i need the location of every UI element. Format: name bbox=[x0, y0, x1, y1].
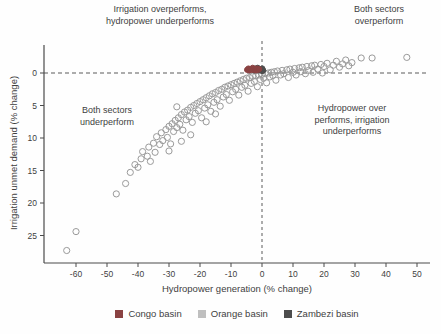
data-point bbox=[264, 80, 270, 86]
x-tick-label: -60 bbox=[70, 269, 83, 279]
data-point bbox=[171, 128, 177, 134]
legend-label-zambezi: Zambezi basin bbox=[297, 308, 359, 319]
x-tick-label: -20 bbox=[194, 269, 207, 279]
data-point bbox=[285, 74, 291, 80]
data-point bbox=[257, 67, 262, 72]
x-tick-label: -50 bbox=[101, 269, 114, 279]
y-tick-label: 0 bbox=[32, 68, 37, 78]
data-point bbox=[189, 119, 195, 125]
x-tick-label: 30 bbox=[350, 269, 360, 279]
data-point bbox=[369, 55, 375, 61]
data-point bbox=[226, 97, 232, 103]
annotation-both-overperform: Both sectors overperform bbox=[320, 4, 438, 27]
data-point bbox=[245, 88, 251, 94]
legend: Congo basin Orange basin Zambezi basin bbox=[44, 308, 430, 319]
data-point bbox=[150, 140, 156, 146]
data-point bbox=[180, 127, 186, 133]
annotation-irrigation-overperforms: Irrigation overperforms, hydropower unde… bbox=[60, 4, 260, 27]
legend-item-zambezi: Zambezi basin bbox=[284, 308, 359, 319]
data-point bbox=[236, 92, 242, 98]
data-point bbox=[358, 55, 364, 61]
data-point bbox=[174, 104, 180, 110]
y-tick-label: 15 bbox=[28, 166, 38, 176]
legend-label-congo: Congo basin bbox=[128, 308, 181, 319]
data-point bbox=[147, 158, 153, 164]
data-point bbox=[404, 54, 410, 60]
data-point bbox=[168, 141, 174, 147]
data-point bbox=[188, 132, 194, 138]
congo-swatch-icon bbox=[115, 310, 123, 318]
orange-swatch-icon bbox=[198, 310, 206, 318]
data-point bbox=[203, 119, 209, 125]
data-point bbox=[217, 103, 223, 109]
data-point bbox=[178, 138, 184, 144]
data-point bbox=[164, 134, 170, 140]
data-point bbox=[212, 111, 218, 117]
annotation-hydropower-overperforms: Hydropower over performs, irrigation und… bbox=[292, 103, 412, 138]
legend-item-congo: Congo basin bbox=[115, 308, 181, 319]
x-axis-label: Hydropower generation (% change) bbox=[44, 283, 430, 294]
figure: -60-50-40-30-20-10010203040500510152025 … bbox=[0, 0, 441, 334]
y-axis-label: Irrigation unmet demand (% change) bbox=[8, 76, 19, 230]
data-point bbox=[73, 229, 79, 235]
x-tick-label: -40 bbox=[132, 269, 145, 279]
data-point bbox=[64, 247, 70, 253]
x-tick-label: -30 bbox=[163, 269, 176, 279]
y-tick-label: 20 bbox=[28, 198, 38, 208]
data-point bbox=[138, 156, 144, 162]
x-tick-label: 40 bbox=[381, 269, 391, 279]
x-tick-label: 10 bbox=[288, 269, 298, 279]
annotation-both-underperform: Both sectors underperform bbox=[47, 105, 167, 128]
zambezi-swatch-icon bbox=[284, 310, 292, 318]
x-tick-label: 50 bbox=[412, 269, 422, 279]
legend-label-orange: Orange basin bbox=[211, 308, 268, 319]
data-point bbox=[273, 77, 279, 83]
legend-item-orange: Orange basin bbox=[198, 308, 268, 319]
y-tick-label: 10 bbox=[28, 133, 38, 143]
data-point bbox=[127, 169, 133, 175]
x-tick-label: 0 bbox=[260, 269, 265, 279]
data-point bbox=[166, 148, 172, 154]
data-point bbox=[113, 191, 119, 197]
y-tick-label: 5 bbox=[32, 101, 37, 111]
data-point bbox=[254, 84, 260, 90]
data-point bbox=[123, 180, 129, 186]
x-tick-label: 20 bbox=[319, 269, 329, 279]
data-point bbox=[152, 149, 158, 155]
y-tick-label: 25 bbox=[28, 231, 38, 241]
data-point bbox=[208, 108, 214, 114]
x-tick-label: -10 bbox=[225, 269, 238, 279]
